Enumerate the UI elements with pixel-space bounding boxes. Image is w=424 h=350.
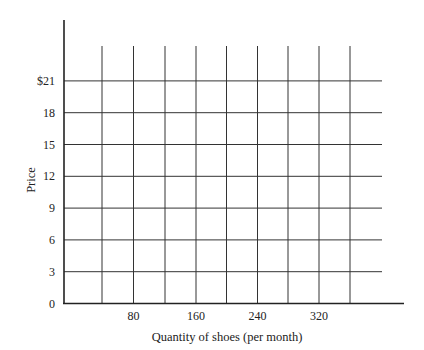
- y-tick-label: 18: [43, 106, 55, 120]
- chart: 0369121518$21 80160240320 Price Quantity…: [0, 0, 424, 350]
- y-tick-label: 15: [43, 138, 55, 152]
- y-tick-labels: 0369121518$21: [37, 74, 55, 311]
- x-tick-label: 80: [128, 309, 140, 323]
- horizontal-gridlines: [64, 81, 382, 272]
- x-tick-label: 160: [187, 309, 205, 323]
- y-tick-label: 3: [49, 265, 55, 279]
- x-axis-title: Quantity of shoes (per month): [152, 330, 303, 344]
- y-axis-title: Price: [24, 167, 38, 193]
- y-tick-label: 12: [43, 169, 55, 183]
- vertical-gridlines: [102, 46, 350, 304]
- y-tick-label: 9: [49, 201, 55, 215]
- y-tick-label: 0: [49, 297, 55, 311]
- axes: [63, 20, 404, 304]
- y-tick-label: 6: [49, 233, 55, 247]
- y-tick-label: $21: [37, 74, 55, 88]
- x-tick-label: 240: [249, 309, 267, 323]
- x-tick-label: 320: [310, 309, 328, 323]
- x-tick-labels: 80160240320: [128, 309, 329, 323]
